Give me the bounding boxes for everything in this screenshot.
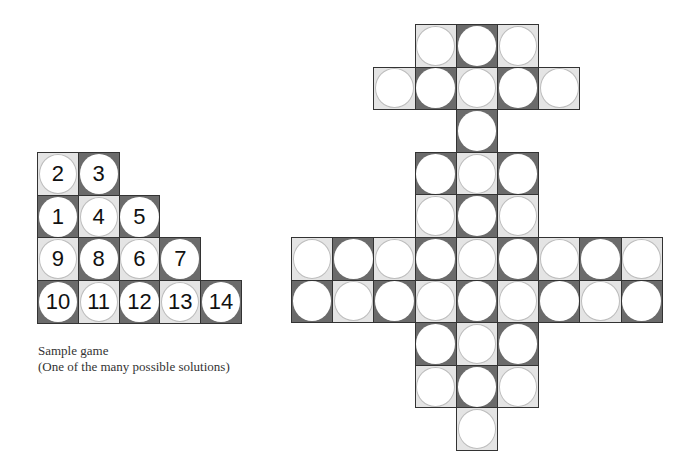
puzzle-cell	[497, 322, 539, 366]
puzzle-cell	[497, 280, 539, 324]
puzzle-cell	[456, 24, 498, 68]
peg-circle	[334, 281, 373, 321]
puzzle-cell	[415, 24, 457, 68]
puzzle-cell	[497, 152, 539, 196]
peg-circle	[458, 111, 497, 151]
peg-circle	[375, 239, 414, 279]
peg-circle: 12	[120, 282, 158, 322]
peg-circle	[540, 281, 579, 321]
caption-title: Sample game	[38, 343, 230, 359]
puzzle-cell	[497, 365, 539, 409]
sample-cell: 9	[37, 237, 79, 281]
puzzle-cell	[415, 152, 457, 196]
peg-circle	[499, 239, 538, 279]
puzzle-cell	[579, 237, 621, 281]
puzzle-cell	[373, 237, 415, 281]
sample-cell: 5	[119, 195, 161, 239]
peg-circle: 1	[39, 197, 77, 237]
peg-circle: 7	[161, 239, 199, 279]
peg-circle: 2	[39, 154, 77, 194]
peg-circle: 13	[161, 282, 199, 322]
sample-cell: 8	[78, 237, 120, 281]
puzzle-cell	[497, 67, 539, 111]
peg-circle	[458, 239, 497, 279]
peg-circle	[458, 154, 497, 194]
puzzle-cell	[456, 280, 498, 324]
puzzle-cell	[456, 407, 498, 451]
peg-circle	[499, 367, 538, 407]
sample-cell: 14	[200, 280, 242, 324]
puzzle-cell	[291, 280, 333, 324]
peg-circle	[458, 409, 497, 449]
sample-caption: Sample game (One of the many possible so…	[38, 343, 230, 375]
peg-circle	[499, 281, 538, 321]
puzzle-cell	[415, 365, 457, 409]
puzzle-cell	[456, 194, 498, 238]
puzzle-cell	[415, 280, 457, 324]
peg-circle: 5	[120, 197, 158, 237]
sample-cell: 2	[37, 152, 79, 196]
peg-circle: 6	[120, 239, 158, 279]
sample-cell: 13	[159, 280, 201, 324]
peg-circle	[458, 26, 497, 66]
peg-circle	[540, 68, 579, 108]
puzzle-cell	[497, 24, 539, 68]
puzzle-cell	[538, 280, 580, 324]
puzzle-cell	[456, 109, 498, 153]
puzzle-cell	[538, 67, 580, 111]
peg-circle: 3	[80, 154, 118, 194]
sample-cell: 3	[78, 152, 120, 196]
caption-subtitle: (One of the many possible solutions)	[38, 359, 230, 375]
puzzle-cell	[456, 67, 498, 111]
peg-circle	[458, 281, 497, 321]
peg-circle: 14	[202, 282, 240, 322]
puzzle-cell	[332, 237, 374, 281]
puzzle-cell	[456, 237, 498, 281]
peg-circle	[581, 281, 620, 321]
puzzle-cell	[415, 322, 457, 366]
peg-circle	[499, 154, 538, 194]
puzzle-cell	[497, 237, 539, 281]
puzzle-cell	[579, 280, 621, 324]
peg-circle	[375, 281, 414, 321]
peg-circle	[375, 68, 414, 108]
peg-circle	[622, 281, 661, 321]
puzzle-cell	[373, 280, 415, 324]
peg-circle	[458, 68, 497, 108]
peg-circle	[416, 239, 455, 279]
peg-circle	[581, 239, 620, 279]
puzzle-cell	[415, 67, 457, 111]
sample-cell: 10	[37, 280, 79, 324]
peg-circle	[458, 196, 497, 236]
peg-circle	[540, 239, 579, 279]
peg-circle	[416, 26, 455, 66]
puzzle-cell	[456, 152, 498, 196]
peg-circle	[293, 239, 332, 279]
peg-circle	[334, 239, 373, 279]
puzzle-cell	[621, 237, 663, 281]
peg-circle	[416, 68, 455, 108]
peg-circle: 9	[39, 239, 77, 279]
puzzle-cell	[538, 237, 580, 281]
peg-circle	[499, 324, 538, 364]
puzzle-cell	[291, 237, 333, 281]
puzzle-cell	[415, 194, 457, 238]
puzzle-cell	[373, 67, 415, 111]
peg-circle	[499, 68, 538, 108]
sample-cell: 4	[78, 195, 120, 239]
peg-circle	[416, 281, 455, 321]
puzzle-cell	[332, 280, 374, 324]
sample-cell: 1	[37, 195, 79, 239]
sample-cell: 12	[119, 280, 161, 324]
peg-circle: 8	[80, 239, 118, 279]
peg-circle	[622, 239, 661, 279]
puzzle-cell	[621, 280, 663, 324]
peg-circle	[499, 26, 538, 66]
sample-cell: 7	[159, 237, 201, 281]
peg-circle: 11	[80, 282, 118, 322]
peg-circle: 10	[39, 282, 77, 322]
peg-circle	[416, 154, 455, 194]
puzzle-cell	[456, 365, 498, 409]
peg-circle: 4	[80, 197, 118, 237]
puzzle-cell	[415, 237, 457, 281]
